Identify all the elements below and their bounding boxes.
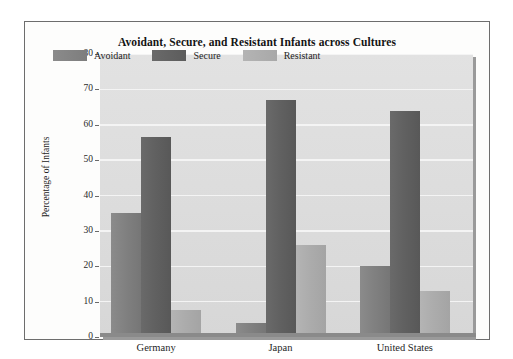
legend-item-resistant[interactable]: Resistant (243, 50, 343, 61)
y-tick-label: 10 (67, 297, 93, 307)
bar-united-states-resistant[interactable] (420, 291, 450, 337)
x-tick-label-united-states: United States (345, 342, 465, 353)
bar-germany-secure[interactable] (141, 137, 171, 337)
chart-figure-frame: Avoidant, Secure, and Resistant Infants … (24, 21, 490, 340)
chart-legend: AvoidantSecureResistant (53, 50, 342, 61)
y-tick-mark (95, 266, 99, 267)
x-tick-label-germany: Germany (96, 342, 216, 353)
y-tick-mark (95, 337, 99, 338)
gridline (100, 89, 473, 91)
legend-label-avoidant: Avoidant (94, 50, 130, 61)
bar-japan-resistant[interactable] (296, 245, 326, 337)
y-tick-label: 50 (67, 155, 93, 165)
y-tick-mark (95, 125, 99, 126)
y-tick-mark (95, 231, 99, 232)
bar-germany-avoidant[interactable] (111, 213, 141, 337)
y-tick-label: 70 (67, 84, 93, 94)
y-tick-mark (95, 89, 99, 90)
legend-label-resistant: Resistant (284, 50, 321, 61)
y-tick-label: 60 (67, 120, 93, 130)
chart-title: Avoidant, Secure, and Resistant Infants … (25, 36, 489, 48)
bar-united-states-secure[interactable] (390, 111, 420, 337)
y-tick-mark (95, 196, 99, 197)
y-tick-mark (95, 160, 99, 161)
y-tick-label: 20 (67, 261, 93, 271)
y-axis-title: Percentage of Infants (41, 107, 51, 247)
y-tick-label: 0 (67, 332, 93, 342)
legend-label-secure: Secure (193, 50, 220, 61)
y-tick-mark (95, 302, 99, 303)
bar-united-states-avoidant[interactable] (360, 266, 390, 337)
legend-item-avoidant[interactable]: Avoidant (53, 50, 152, 61)
bar-japan-secure[interactable] (266, 100, 296, 337)
x-axis-line (100, 333, 476, 337)
legend-swatch-resistant (243, 50, 277, 61)
y-tick-label: 40 (67, 191, 93, 201)
legend-item-secure[interactable]: Secure (152, 50, 242, 61)
y-tick-label: 30 (67, 226, 93, 236)
legend-swatch-secure (152, 50, 186, 61)
legend-swatch-avoidant (53, 50, 87, 61)
x-tick-label-japan: Japan (221, 342, 341, 353)
plot-area (100, 54, 473, 337)
